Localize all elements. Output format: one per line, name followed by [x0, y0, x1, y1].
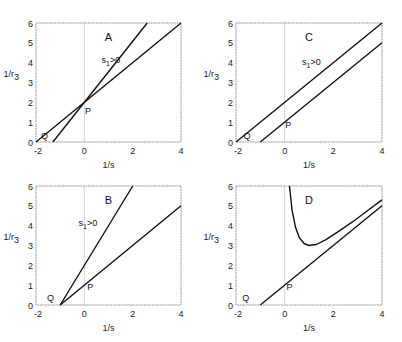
y-tick-label: 2 — [28, 98, 33, 108]
y-tick-label: 4 — [228, 221, 233, 231]
x-tick-label: 4 — [379, 309, 384, 319]
y-tick-label: 5 — [28, 201, 33, 211]
y-tick-label: 6 — [228, 19, 233, 29]
y-tick-label: 2 — [228, 98, 233, 108]
y-axis-label: 1/r3 — [203, 69, 219, 82]
y-tick-label: 1 — [228, 281, 233, 291]
y-tick-label: 4 — [28, 221, 33, 231]
y-tick-label: 0 — [228, 138, 233, 148]
y-tick-label: 4 — [28, 58, 33, 68]
point-label-q: Q — [243, 131, 250, 141]
series-s1-0 — [60, 186, 133, 305]
panel-letter: D — [305, 194, 313, 206]
condition-annotation: s1>0 — [79, 218, 98, 230]
y-tick-label: 3 — [228, 78, 233, 88]
x-axis-label: 1/s — [102, 160, 115, 170]
x-axis-label: 1/s — [303, 160, 316, 170]
x-tick-label: -2 — [234, 146, 242, 156]
series-s1-0 — [53, 23, 147, 142]
point-label-p: P — [285, 120, 291, 130]
x-tick-label: 2 — [331, 309, 336, 319]
x-axis-label: 1/s — [102, 323, 115, 333]
x-tick-label: 2 — [130, 309, 135, 319]
series-reference — [260, 206, 382, 305]
y-tick-label: 6 — [28, 19, 33, 29]
y-tick-label: 1 — [28, 281, 33, 291]
x-axis-label: 1/s — [303, 323, 316, 333]
y-tick-label: 6 — [28, 182, 33, 192]
x-tick-label: 0 — [82, 146, 87, 156]
point-label-q: Q — [242, 293, 249, 303]
y-tick-label: 0 — [28, 301, 33, 311]
panel-letter: C — [305, 31, 313, 43]
panel-letter: B — [105, 194, 112, 206]
x-tick-label: 0 — [282, 146, 287, 156]
y-tick-label: 0 — [28, 138, 33, 148]
y-tick-label: 1 — [228, 118, 233, 128]
y-tick-label: 3 — [28, 78, 33, 88]
y-tick-label: 2 — [28, 261, 33, 271]
y-axis-label: 1/r3 — [203, 232, 219, 245]
x-tick-label: 2 — [331, 146, 336, 156]
y-tick-label: 2 — [228, 261, 233, 271]
point-label-q: Q — [47, 293, 54, 303]
panel-letter: A — [105, 31, 113, 43]
y-tick-label: 6 — [228, 182, 233, 192]
panel-a: 0123456-20241/s1/r3As1>0PQ — [3, 19, 183, 171]
point-label-p: P — [87, 282, 93, 292]
condition-annotation: s1>0 — [102, 55, 121, 67]
x-tick-label: 0 — [282, 309, 287, 319]
x-tick-label: -2 — [34, 309, 42, 319]
point-label-p: P — [287, 282, 293, 292]
y-tick-label: 0 — [228, 301, 233, 311]
condition-annotation: s1>0 — [302, 57, 321, 69]
x-tick-label: 4 — [178, 309, 183, 319]
y-tick-label: 5 — [228, 38, 233, 48]
y-tick-label: 1 — [28, 118, 33, 128]
x-tick-label: 4 — [379, 146, 384, 156]
x-tick-label: -2 — [34, 146, 42, 156]
panel-d: 0123456-20241/s1/r3DPQ — [203, 182, 384, 334]
x-tick-label: 0 — [82, 309, 87, 319]
x-tick-label: -2 — [234, 309, 242, 319]
y-axis-label: 1/r3 — [3, 232, 19, 245]
panel-b: 0123456-20241/s1/r3Bs1>0PQ — [3, 182, 183, 334]
x-tick-label: 4 — [178, 146, 183, 156]
point-label-p: P — [85, 106, 91, 116]
y-axis-label: 1/r3 — [3, 69, 19, 82]
y-tick-label: 5 — [228, 201, 233, 211]
y-tick-label: 3 — [228, 241, 233, 251]
x-tick-label: 2 — [130, 146, 135, 156]
figure-4-panel-chart: 0123456-20241/s1/r3As1>0PQ0123456-20241/… — [0, 0, 402, 342]
y-tick-label: 4 — [228, 58, 233, 68]
y-tick-label: 5 — [28, 38, 33, 48]
panel-c: 0123456-20241/s1/r3Cs1>0PQ — [203, 19, 384, 171]
series-curve — [290, 186, 383, 246]
point-label-q: Q — [41, 131, 48, 141]
series-reference — [260, 43, 382, 142]
y-tick-label: 3 — [28, 241, 33, 251]
